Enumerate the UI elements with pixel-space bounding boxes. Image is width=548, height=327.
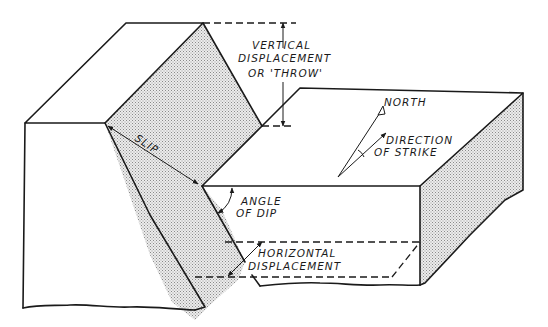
north-strike-indicator [338, 106, 386, 177]
label-vertical-displacement-3: OR 'THROW' [248, 67, 323, 79]
fault-block-diagram: VERTICAL DISPLACEMENT OR 'THROW' NORTH D… [0, 0, 548, 327]
label-angle-of-dip-2: OF DIP [236, 207, 277, 219]
label-vertical-displacement-1: VERTICAL [252, 39, 311, 51]
label-horizontal-displacement-2: DISPLACEMENT [248, 260, 342, 272]
label-north: NORTH [384, 96, 427, 108]
upthrown-block [23, 23, 262, 320]
label-direction-of-strike-2: OF STRIKE [374, 146, 438, 158]
side-face [420, 93, 523, 285]
label-direction-of-strike-1: DIRECTION [386, 134, 453, 146]
label-vertical-displacement-2: DISPLACEMENT [238, 52, 332, 64]
label-angle-of-dip-1: ANGLE [240, 195, 282, 207]
label-horizontal-displacement-1: HORIZONTAL [258, 247, 336, 259]
